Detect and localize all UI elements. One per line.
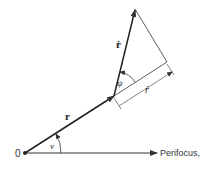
r-vector [25,96,114,153]
origin-label: 0 [15,148,21,159]
r-dot-vector-label: ṙ [116,38,121,50]
angle-v-arc [56,134,61,153]
r-dot-scalar-label: ṙ [145,84,149,95]
r-vector-label: r [65,110,70,122]
triangle-side-transverse [135,9,167,62]
perifocus-label: Perifocus, [160,148,200,158]
orbital-velocity-diagram: 0 Perifocus, r v ṙ ψ ṙ [0,0,212,169]
angle-v-label: v [50,141,54,151]
angle-psi-label: ψ [117,78,123,88]
dimension-tick-end [167,64,174,75]
dimension-tick-start [114,98,121,109]
